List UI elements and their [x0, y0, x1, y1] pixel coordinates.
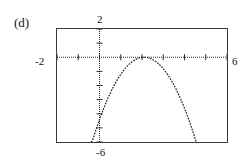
calculator-screen-frame	[56, 28, 228, 143]
axis-label-y-min: -6	[96, 147, 105, 158]
figure-container: (d) 2 -2 6 -6	[0, 0, 251, 164]
axis-label-x-min: -2	[35, 56, 44, 67]
axis-label-y-max: 2	[97, 14, 103, 25]
parabola-curve	[91, 57, 197, 142]
parabola-trace	[91, 57, 197, 142]
axis-label-x-max: 6	[232, 56, 238, 67]
figure-part-label: (d)	[14, 16, 29, 29]
plot-canvas	[57, 29, 227, 142]
